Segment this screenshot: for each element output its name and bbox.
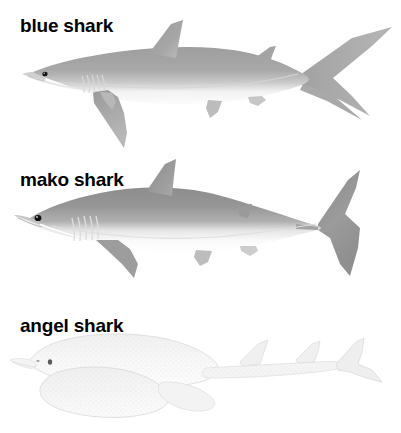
angel-shark-first-dorsal-fin [240,340,268,366]
mako-shark-eye [35,215,42,221]
blue-shark-pelvic-fin [206,100,222,118]
species-panel-blue-shark: blue shark [0,0,401,152]
species-label-angel-shark: angel shark [20,316,123,335]
mako-shark-anal-fin [240,246,258,256]
species-panel-angel-shark: angel shark [0,300,401,433]
angel-shark-eye [48,359,52,365]
species-label-blue-shark: blue shark [20,16,113,35]
angel-shark-body-group [10,334,382,417]
blue-shark-body-group [22,20,392,148]
blue-shark-eye [42,72,47,77]
angel-shark-pelvic-fin [158,382,215,411]
mako-shark-pelvic-fin [194,250,212,266]
angel-shark-caudal-fin [336,338,382,382]
mako-shark-dorsal-fin [148,159,176,196]
angel-shark-second-dorsal-fin [296,341,320,363]
shark-diagram: blue shark [0,0,401,433]
species-label-mako-shark: mako shark [20,170,124,189]
species-panel-mako-shark: mako shark [0,152,401,300]
angel-shark-spiracle [36,360,39,362]
blue-shark-anal-fin [248,96,266,106]
mako-shark-caudal-fin [318,170,360,276]
